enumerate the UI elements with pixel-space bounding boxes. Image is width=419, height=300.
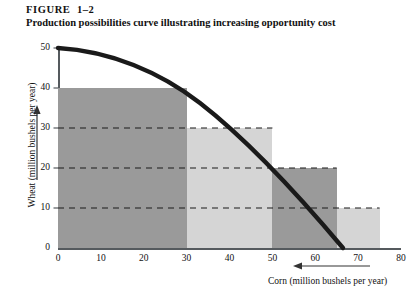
y-tick-label-0: 0: [34, 242, 50, 252]
production-possibilities-curve: [58, 48, 343, 248]
x-tick-label-20: 20: [134, 253, 154, 263]
x-tick-label-50: 50: [262, 253, 282, 263]
x-tick-label-80: 80: [391, 253, 411, 263]
x-tick-label-40: 40: [220, 253, 240, 263]
x-tick-label-0: 0: [48, 253, 68, 263]
x-tick-label-30: 30: [177, 253, 197, 263]
x-tick-label-10: 10: [91, 253, 111, 263]
y-axis-title: Wheat (million bushels per year): [27, 50, 37, 240]
x-tick-label-60: 60: [305, 253, 325, 263]
x-tick-label-70: 70: [348, 253, 368, 263]
chart-plot-area: 50 40 30 20 10 0 0 10 20 30 40 50 60 70 …: [0, 0, 419, 300]
x-axis-title: Corn (million bushels per year): [268, 276, 387, 286]
left-arrow-icon: [293, 262, 370, 269]
figure-root: FIGURE 1–2 Production possibilities curv…: [0, 0, 419, 300]
